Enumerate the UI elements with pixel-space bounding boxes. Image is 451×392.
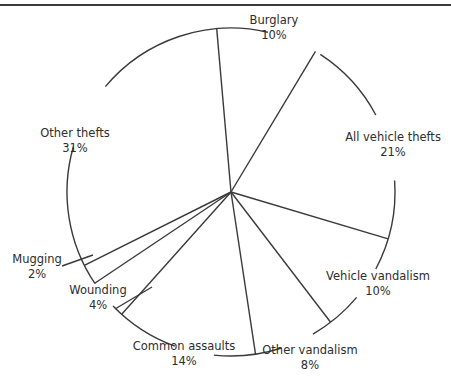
slice-divider: [84, 192, 231, 265]
label-mugging: Mugging2%: [12, 252, 62, 282]
label-vehicle-vandalism: Vehicle vandalism10%: [326, 269, 430, 299]
slice-divider: [217, 29, 231, 192]
label-common-assaults: Common assaults14%: [133, 339, 236, 369]
slice-divider: [95, 192, 231, 283]
slice-dividers: [84, 29, 388, 355]
label-other-thefts: Other thefts31%: [40, 126, 110, 156]
label-all-vehicle-thefts: All vehicle thefts21%: [345, 130, 441, 160]
mugging-leader: [62, 255, 93, 266]
arc-segment: [313, 297, 357, 334]
arc-segment: [376, 181, 395, 269]
pie-chart: [0, 0, 451, 392]
arc-segment: [105, 28, 268, 87]
label-wounding: Wounding4%: [69, 283, 126, 313]
arc-segment: [320, 54, 375, 115]
slice-divider: [231, 192, 256, 354]
slice-divider: [231, 192, 388, 239]
slice-divider: [231, 51, 315, 192]
label-burglary: Burglary10%: [250, 13, 299, 43]
slice-divider: [231, 192, 331, 322]
label-other-vandalism: Other vandalism8%: [262, 343, 357, 373]
